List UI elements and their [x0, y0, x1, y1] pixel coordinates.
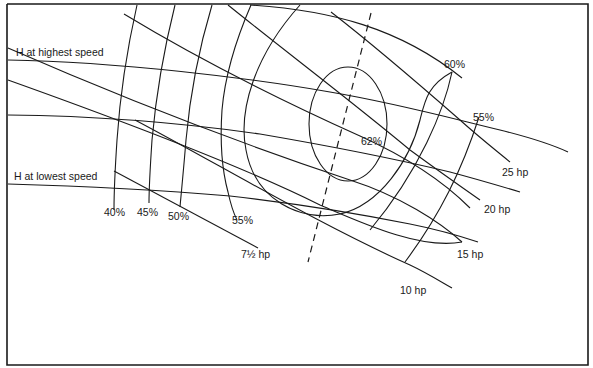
head-curve-highest-speed	[8, 60, 568, 152]
head-curve-lowest-speed	[8, 184, 478, 242]
efficiency-contour-45	[149, 5, 175, 203]
efficiency-contour-50	[180, 5, 212, 207]
efficiency-contour-62	[309, 67, 387, 181]
label-power-7-5hp: 7½ hp	[241, 248, 270, 260]
efficiency-contour-55-left	[221, 5, 251, 220]
power-line-upper	[228, 5, 480, 200]
label-head-highest-speed: H at highest speed	[16, 46, 104, 58]
power-line-20hp	[124, 14, 470, 208]
label-efficiency-45: 45%	[137, 206, 158, 218]
label-efficiency-62: 62%	[361, 135, 382, 147]
label-power-10hp: 10 hp	[400, 284, 426, 296]
label-efficiency-50: 50%	[168, 210, 189, 222]
label-efficiency-55-right: 55%	[473, 111, 494, 123]
label-power-20hp: 20 hp	[484, 203, 510, 215]
efficiency-contour-60-top	[250, 5, 462, 78]
fan-performance-diagram: H at highest speed H at lowest speed 40%…	[0, 0, 593, 368]
diagram-frame	[7, 4, 588, 365]
power-line-25hp	[331, 12, 510, 162]
label-power-15hp: 15 hp	[457, 248, 483, 260]
label-efficiency-40: 40%	[104, 206, 125, 218]
label-head-lowest-speed: H at lowest speed	[14, 170, 98, 182]
label-efficiency-55-left: 55%	[232, 214, 253, 226]
efficiency-contour-40	[114, 5, 137, 210]
label-power-25hp: 25 hp	[502, 166, 528, 178]
label-efficiency-60: 60%	[444, 58, 465, 70]
power-line-15hp-diag	[8, 48, 462, 242]
